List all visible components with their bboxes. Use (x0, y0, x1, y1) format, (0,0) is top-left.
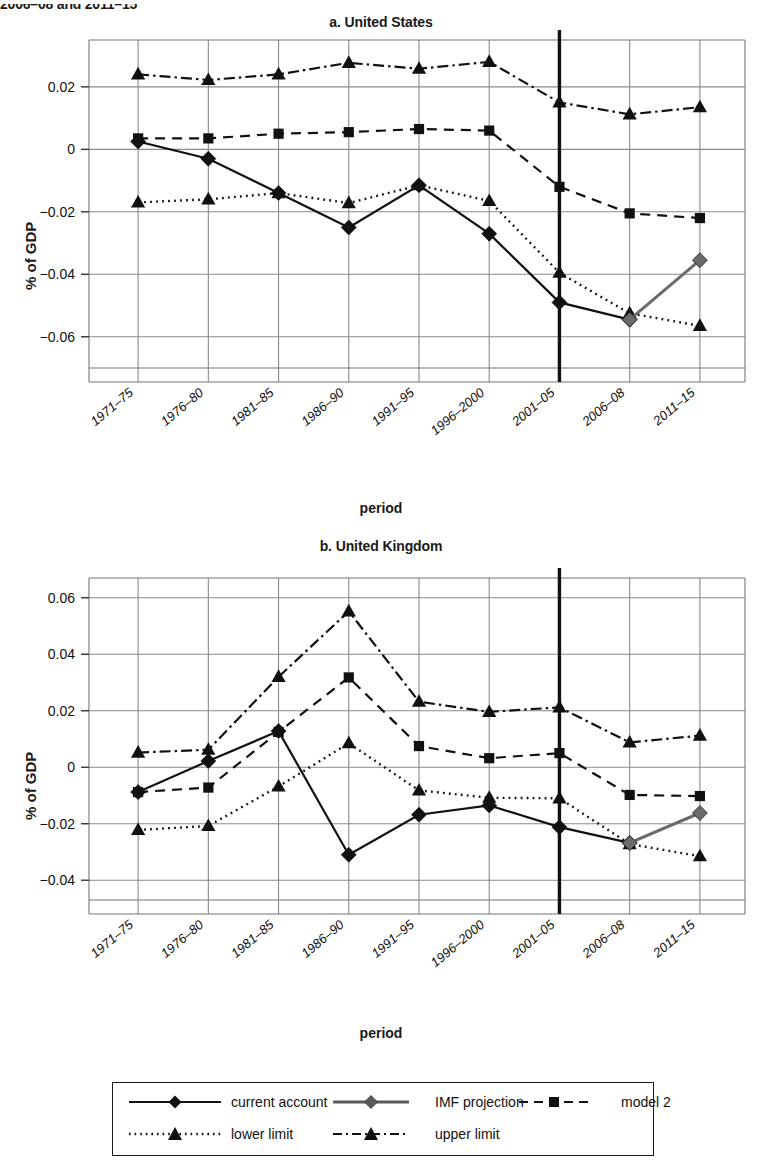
svg-text:0.06: 0.06 (48, 590, 75, 606)
svg-text:1991–95: 1991–95 (369, 384, 418, 429)
legend-label: current account (231, 1094, 328, 1110)
svg-text:2006–08: 2006–08 (578, 384, 628, 429)
svg-text:0: 0 (67, 759, 75, 775)
svg-text:0.04: 0.04 (48, 646, 75, 662)
svg-text:0.02: 0.02 (48, 703, 75, 719)
dashed-square-icon (517, 1092, 613, 1112)
svg-text:2011–15: 2011–15 (649, 384, 698, 429)
legend-item-imf-projection: IMF projection (331, 1087, 524, 1117)
svg-text:2006–08: 2006–08 (578, 916, 628, 961)
chart-panel-united-kingdom: b. United Kingdom % of GDP 0.060.040.020… (0, 520, 762, 1060)
legend-label: model 2 (621, 1094, 671, 1110)
svg-text:2011–15: 2011–15 (649, 916, 698, 961)
svg-text:1986–90: 1986–90 (298, 916, 347, 961)
solid-diamond-icon (127, 1092, 223, 1112)
solid-diamond-gray-icon (331, 1092, 427, 1112)
svg-text:−0.04: −0.04 (40, 872, 76, 888)
chart-b-plot: 0.060.040.020−0.02−0.041971–751976–80198… (0, 520, 762, 1020)
svg-text:1991–95: 1991–95 (369, 916, 418, 961)
svg-text:0: 0 (67, 141, 75, 157)
legend-item-current-account: current account (127, 1087, 328, 1117)
svg-text:1976–80: 1976–80 (158, 916, 207, 961)
svg-text:1981–85: 1981–85 (228, 916, 277, 961)
svg-text:1976–80: 1976–80 (158, 384, 207, 429)
svg-text:−0.06: −0.06 (40, 329, 76, 345)
svg-text:−0.02: −0.02 (40, 816, 76, 832)
svg-text:1996–2000: 1996–2000 (428, 916, 488, 970)
chart-panel-united-states: a. United States % of GDP 0.020−0.02−0.0… (0, 0, 762, 520)
legend-label: lower limit (231, 1126, 293, 1142)
legend-item-model-2: model 2 (517, 1087, 671, 1117)
svg-text:−0.04: −0.04 (40, 266, 76, 282)
legend-row-2: lower limit upper limit (113, 1119, 653, 1149)
dashdot-triangle-icon (331, 1124, 427, 1144)
chart-a-xlabel: period (0, 500, 762, 516)
legend-item-lower-limit: lower limit (127, 1119, 293, 1149)
svg-text:1971–75: 1971–75 (88, 384, 137, 429)
svg-text:2001–05: 2001–05 (508, 916, 558, 961)
svg-text:1971–75: 1971–75 (88, 916, 137, 961)
chart-a-plot: 0.020−0.02−0.04−0.061971–751976–801981–8… (0, 0, 762, 500)
svg-text:2001–05: 2001–05 (508, 384, 558, 429)
legend-label: upper limit (435, 1126, 500, 1142)
svg-text:0.02: 0.02 (48, 79, 75, 95)
svg-text:1986–90: 1986–90 (298, 384, 347, 429)
legend-row-1: current account IMF projection model 2 (113, 1087, 653, 1117)
chart-legend: current account IMF projection model 2 l… (112, 1082, 654, 1156)
legend-label: IMF projection (435, 1094, 524, 1110)
dotted-triangle-icon (127, 1124, 223, 1144)
svg-text:−0.02: −0.02 (40, 204, 76, 220)
svg-text:1996–2000: 1996–2000 (428, 384, 488, 438)
chart-b-xlabel: period (0, 1025, 762, 1041)
svg-text:1981–85: 1981–85 (228, 384, 277, 429)
legend-item-upper-limit: upper limit (331, 1119, 500, 1149)
